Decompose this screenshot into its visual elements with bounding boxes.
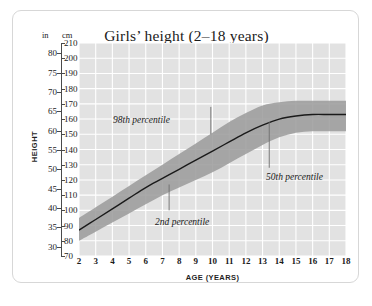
y-tick-mark-cm (61, 58, 65, 59)
y-tick-cm: 100 (64, 205, 78, 215)
y-tick-inches: 55 (48, 145, 57, 155)
x-axis-title: AGE (YEARS) (79, 273, 346, 282)
x-tick: 18 (342, 256, 351, 266)
x-tick: 14 (275, 256, 284, 266)
plot-area (79, 43, 346, 256)
y-tick-mark-cm (61, 43, 65, 44)
y-tick-mark-cm (61, 210, 65, 211)
y-tick-inches: 45 (48, 184, 57, 194)
y-tick-cm: 200 (64, 53, 78, 63)
y-tick-cm: 190 (64, 68, 78, 78)
y-tick-cm: 150 (64, 129, 78, 139)
annotation-98th-percentile: 98th percentile (113, 115, 170, 125)
x-tick: 3 (93, 256, 98, 266)
chart-card: Girls’ height (2–18 years) in cm HEIGHT … (12, 10, 359, 283)
x-tick: 16 (308, 256, 317, 266)
y-tick-mark-cm (61, 165, 65, 166)
y-tick-mark-inches (57, 150, 62, 151)
y-tick-inches: 35 (48, 222, 57, 232)
x-tick: 13 (258, 256, 267, 266)
y-tick-mark-cm (61, 89, 65, 90)
y-tick-mark-inches (57, 92, 62, 93)
y-tick-mark-inches (57, 247, 62, 248)
x-tick: 11 (225, 256, 234, 266)
y-tick-mark-cm (61, 241, 65, 242)
x-tick: 7 (160, 256, 165, 266)
x-tick: 8 (177, 256, 182, 266)
y-tick-inches: 30 (48, 242, 57, 252)
x-tick: 6 (144, 256, 149, 266)
y-tick-inches: 75 (48, 68, 57, 78)
x-tick: 9 (194, 256, 199, 266)
y-tick-mark-cm (61, 134, 65, 135)
y-tick-mark-cm (61, 195, 65, 196)
y-tick-mark-inches (57, 131, 62, 132)
x-tick: 5 (127, 256, 132, 266)
y-tick-cm: 160 (64, 114, 78, 124)
y-tick-mark-inches (57, 169, 62, 170)
y-tick-mark-cm (61, 119, 65, 120)
y-axis-ticks-inches: 3035404550556065707580 (35, 43, 57, 256)
chart-svg (79, 43, 346, 256)
chart-screenshot: Girls’ height (2–18 years) in cm HEIGHT … (0, 0, 372, 306)
y-tick-cm: 170 (64, 99, 78, 109)
y-tick-cm: 80 (64, 236, 73, 246)
y-tick-cm: 140 (64, 145, 78, 155)
x-tick: 2 (77, 256, 82, 266)
y-tick-cm: 210 (64, 38, 78, 48)
x-tick: 10 (208, 256, 217, 266)
y-tick-inches: 50 (48, 164, 57, 174)
y-tick-inches: 70 (48, 87, 57, 97)
x-axis-ticks: 23456789101112131415161718 (79, 256, 346, 270)
y-tick-mark-inches (57, 208, 62, 209)
y-tick-mark-inches (57, 73, 62, 74)
y-tick-inches: 80 (48, 48, 57, 58)
y-tick-inches: 40 (48, 203, 57, 213)
y-tick-mark-inches (57, 189, 62, 190)
x-tick: 17 (325, 256, 334, 266)
y-tick-mark-inches (57, 111, 62, 112)
x-tick: 4 (110, 256, 115, 266)
y-tick-inches: 65 (48, 106, 57, 116)
y-tick-mark-cm (61, 104, 65, 105)
x-tick: 15 (291, 256, 300, 266)
y-axis-unit-inches: in (42, 30, 49, 40)
y-tick-inches: 60 (48, 126, 57, 136)
y-tick-cm: 90 (64, 221, 73, 231)
y-tick-cm: 110 (64, 190, 77, 200)
x-tick: 12 (241, 256, 250, 266)
annotation-2nd-percentile: 2nd percentile (155, 217, 209, 227)
y-tick-cm: 70 (64, 251, 73, 261)
y-tick-mark-inches (57, 227, 62, 228)
y-tick-cm: 130 (64, 160, 78, 170)
y-tick-mark-inches (57, 53, 62, 54)
y-tick-mark-cm (61, 180, 65, 181)
y-tick-mark-cm (61, 256, 65, 257)
y-tick-cm: 180 (64, 84, 78, 94)
annotation-50th-percentile: 50th percentile (266, 172, 323, 182)
y-tick-cm: 120 (64, 175, 78, 185)
